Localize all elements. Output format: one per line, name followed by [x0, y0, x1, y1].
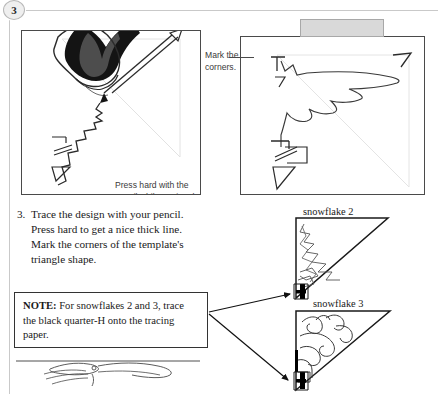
mark-corners-leader-line	[229, 57, 254, 58]
snowflake-2-label: snowflake 2	[303, 206, 354, 217]
note-callout-box: NOTE: For snowflakes 2 and 3, trace the …	[14, 292, 208, 348]
snowflake-corner-marks-illustration	[241, 37, 424, 194]
instruction-number: 3.	[17, 207, 25, 222]
arrow-to-snowflake-2	[209, 294, 290, 312]
arrow-to-snowflake-3	[209, 314, 288, 380]
step-number-badge: 3	[3, 0, 25, 20]
instruction-paragraph: 3. Trace the design with your pencil. Pr…	[17, 207, 192, 267]
hand-tracing-illustration	[22, 31, 200, 194]
mark-corners-annotation: Mark the corners.	[205, 50, 241, 73]
marked-corners-photo-panel	[240, 36, 425, 195]
page-frame-top-rule	[9, 10, 438, 11]
instruction-text: Trace the design with your pencil. Press…	[17, 207, 192, 267]
gray-tab-overlay	[300, 19, 384, 37]
snowflake-3-label: snowflake 3	[313, 298, 364, 309]
tracing-photo-caption: Press hard with the pencil while tracing…	[115, 180, 201, 195]
note-label: NOTE:	[23, 300, 57, 311]
tracing-photo-panel: Press hard with the pencil while tracing…	[21, 30, 201, 195]
page-frame-left-rule	[9, 10, 10, 394]
page-canvas: 3 Press hard with the pen	[0, 0, 438, 394]
